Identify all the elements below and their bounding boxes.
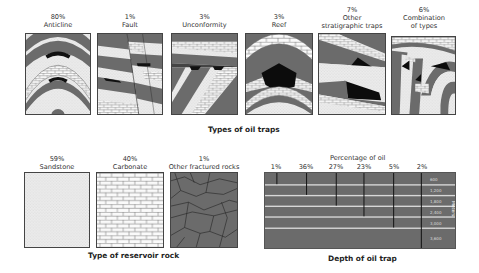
sandstone-panel [24,172,90,248]
reef-panel [245,33,313,115]
depth-label-3: 1,800 [430,199,441,204]
other-strat-name: Other [316,14,388,22]
percent-tick-1: 1% [271,163,281,171]
rock-title: Type of reservoir rock [88,251,179,260]
traps-title: Types of oil traps [208,125,280,134]
combination-panel [391,36,456,115]
fractured-percent: 1% [168,155,240,163]
other-strat-label: 7% Other stratigraphic traps [316,6,388,30]
unconformity-label: 3% Unconformity [171,13,238,29]
fractured-panel [170,172,238,248]
percent-tick-4: 23% [357,163,372,171]
anticline-name: Anticline [25,21,91,29]
combination-percent: 6% [390,6,458,14]
unconformity-panel [171,33,238,115]
depth-label-2: 1,200 [430,188,441,193]
fractured-label: 1% Other fractured rocks [168,155,240,171]
depth-label-6: 3,600 [430,236,441,241]
depth-label-5: 3,000 [430,221,441,226]
depth-label-4: 2,400 [430,210,441,215]
carbonate-name: Carbonate [96,163,164,171]
fault-name: Fault [97,21,163,29]
depth-label-1: 600 [430,177,438,182]
percent-tick-3: 27% [329,163,344,171]
carbonate-label: 40% Carbonate [96,155,164,171]
percent-tick-2: 36% [299,163,314,171]
depth-header: Percentage of oil [330,154,385,162]
depth-chart: 600 1,200 1,800 2,400 3,000 3,600 Meters [264,172,456,249]
fault-label: 1% Fault [97,13,163,29]
carbonate-panel [96,172,164,248]
sandstone-name: Sandstone [24,163,90,171]
other-strat-percent: 7% [316,6,388,14]
fault-percent: 1% [97,13,163,21]
meters-axis-label: Meters [451,201,456,216]
sandstone-percent: 59% [24,155,90,163]
reef-percent: 3% [245,13,313,21]
unconformity-name: Unconformity [171,21,238,29]
carbonate-percent: 40% [96,155,164,163]
combination-label: 6% Combination of types [390,6,458,30]
unconformity-percent: 3% [171,13,238,21]
combination-name-2: of types [390,22,458,30]
reef-label: 3% Reef [245,13,313,29]
sandstone-label: 59% Sandstone [24,155,90,171]
anticline-label: 80% Anticline [25,13,91,29]
anticline-panel [25,33,91,115]
percent-tick-6: 2% [417,163,427,171]
combination-name: Combination [390,14,458,22]
fault-panel [97,33,163,115]
fractured-name: Other fractured rocks [168,163,240,171]
anticline-percent: 80% [25,13,91,21]
reef-name: Reef [245,21,313,29]
depth-title: Depth of oil trap [328,254,397,263]
percent-tick-5: 5% [389,163,399,171]
other-strat-panel [318,33,386,115]
other-strat-name-2: stratigraphic traps [316,22,388,30]
